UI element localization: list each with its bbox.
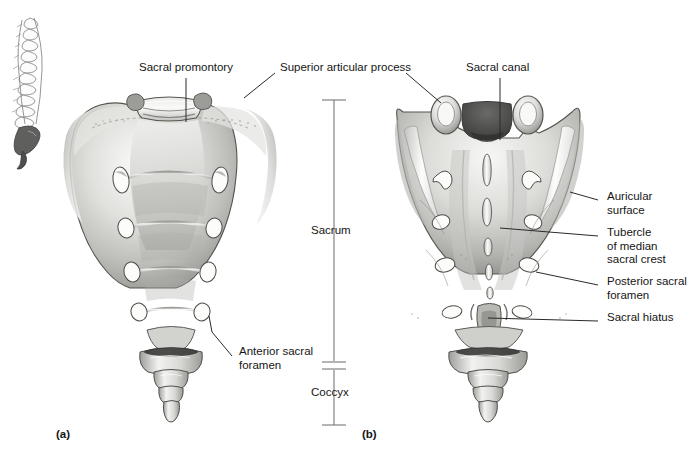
leader-anterior-sacral-foramen-tail xyxy=(209,316,212,332)
leader-auricular-surface xyxy=(570,192,598,200)
label-superior-articular-process: Superior articular process xyxy=(280,61,411,75)
leader-superior-articular-process-right xyxy=(406,73,441,103)
label-sacral-canal: Sacral canal xyxy=(466,61,529,75)
sacral-apex-posterior xyxy=(455,327,523,350)
sacrum-coccyx-bracket xyxy=(322,100,346,425)
bracket-label-coccyx: Coccyx xyxy=(311,386,349,400)
superior-articular-process-right-anterior xyxy=(194,93,212,110)
sacral-apex-anterior xyxy=(147,327,195,351)
superior-articular-process-left-anterior xyxy=(127,94,144,111)
figure-sacrum-coccyx: Sacral promontory Superior articular pro… xyxy=(0,0,689,456)
label-posterior-sacral-foramen: Posterior sacral foramen xyxy=(607,275,687,302)
sacrum-anterior-view xyxy=(63,93,276,422)
leader-superior-articular-process-left xyxy=(244,73,275,98)
label-anterior-sacral-foramen: Anterior sacral foramen xyxy=(239,345,313,372)
leader-sacral-hiatus xyxy=(488,318,598,321)
panel-label-b: (b) xyxy=(362,428,377,440)
bracket-label-sacrum: Sacrum xyxy=(311,224,351,238)
leader-anterior-sacral-foramen xyxy=(212,332,232,356)
leader-posterior-sacral-foramen xyxy=(536,272,598,285)
label-tubercle-of-median-sacral-crest: Tubercle of median sacral crest xyxy=(607,226,666,267)
coccyx-posterior xyxy=(449,348,528,423)
label-sacral-promontory: Sacral promontory xyxy=(139,61,233,75)
label-sacral-hiatus: Sacral hiatus xyxy=(607,311,673,325)
vertebral-column-inset xyxy=(12,18,42,169)
sacral-canal xyxy=(462,102,512,141)
sacral-promontory xyxy=(137,97,201,121)
coccyx-anterior xyxy=(140,348,203,423)
panel-label-a: (a) xyxy=(56,428,70,440)
sacrum-posterior-view xyxy=(395,96,584,422)
label-auricular-surface: Auricular surface xyxy=(607,190,652,217)
inset-sacrum-highlight xyxy=(14,126,40,169)
